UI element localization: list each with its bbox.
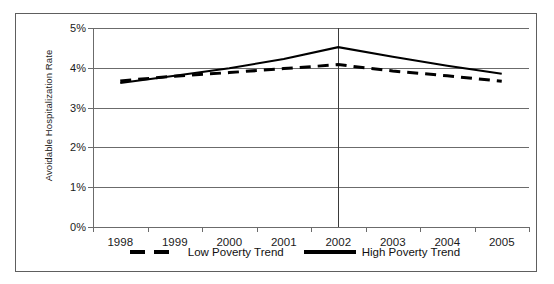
x-tick-mark [257,227,258,232]
chart-figure: Avoidable Hospitalization Rate 5%4%3%2%1… [0,0,554,284]
chart-legend: Low Poverty TrendHigh Poverty Trend [77,246,513,258]
y-tick-label: 2% [70,141,86,153]
y-tick-label: 4% [70,62,86,74]
y-tick-label: 5% [70,22,86,34]
x-tick-mark [311,227,312,232]
legend-solid-line-icon [304,250,356,254]
plot-area: 5%4%3%2%1%0% 199819992000200120022003200… [93,28,529,227]
legend-entry: Low Poverty Trend [130,246,284,258]
x-tick-mark [93,227,94,232]
y-tick-label: 0% [70,221,86,233]
legend-entry: High Poverty Trend [304,246,460,258]
y-tick-label: 1% [70,181,86,193]
x-tick-mark [202,227,203,232]
legend-label: High Poverty Trend [362,246,460,258]
y-axis-title: Avoidable Hospitalization Rate [43,36,54,196]
x-tick-mark [420,227,421,232]
legend-label: Low Poverty Trend [188,246,284,258]
x-tick-mark [529,227,530,232]
figure-frame: Avoidable Hospitalization Rate 5%4%3%2%1… [15,13,537,272]
y-tick-label: 3% [70,102,86,114]
x-tick-mark [475,227,476,232]
series-line [120,47,502,83]
x-tick-mark [366,227,367,232]
series-lines [93,28,529,227]
series-line [120,65,502,82]
x-tick-mark [148,227,149,232]
legend-dashed-line-icon [130,250,182,254]
